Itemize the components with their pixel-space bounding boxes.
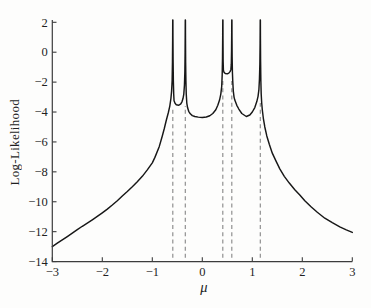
y-tick-label: −12 <box>28 225 48 239</box>
y-tick-label: −10 <box>28 195 48 209</box>
x-tick-label: 2 <box>299 265 305 279</box>
log-likelihood-chart: 20−2−4−6−8−10−12−14−3−2−10123 <box>0 0 371 308</box>
x-tick-label: 3 <box>349 265 355 279</box>
log-likelihood-curve <box>52 20 352 247</box>
x-tick-label: 1 <box>249 265 255 279</box>
y-tick-label: −6 <box>34 135 47 149</box>
axes-lines <box>52 20 352 262</box>
x-tick-label: −3 <box>46 265 59 279</box>
x-tick-label: −2 <box>96 265 109 279</box>
y-tick-label: 2 <box>42 16 48 30</box>
x-tick-label: −1 <box>146 265 159 279</box>
y-tick-label: −4 <box>34 105 48 119</box>
figure-log-likelihood-plot: 20−2−4−6−8−10−12−14−3−2−10123 Log-Likeli… <box>0 0 371 308</box>
y-tick-label: 0 <box>42 45 48 59</box>
y-tick-label: −8 <box>34 165 47 179</box>
x-tick-label: 0 <box>199 265 205 279</box>
y-tick-label: −2 <box>34 75 47 89</box>
